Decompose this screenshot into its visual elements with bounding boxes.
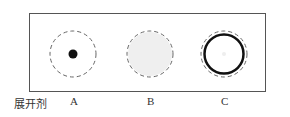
row-label: 展开剂 — [14, 95, 47, 111]
sample-a — [50, 31, 96, 77]
sample-b — [127, 31, 173, 77]
sample-b-spot — [128, 32, 172, 76]
label-b: B — [147, 95, 154, 107]
sample-c-center — [222, 52, 226, 56]
sample-a-spot — [69, 50, 78, 59]
label-c: C — [221, 95, 228, 107]
sample-c — [201, 31, 247, 77]
label-a: A — [70, 95, 78, 107]
